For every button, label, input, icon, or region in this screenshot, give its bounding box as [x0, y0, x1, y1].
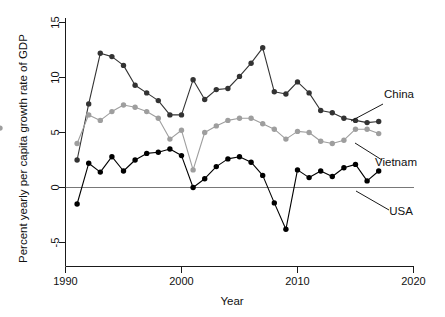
data-point: [318, 108, 323, 113]
data-point: [179, 112, 184, 117]
data-point: [167, 136, 172, 141]
data-point: [214, 87, 219, 92]
data-point: [283, 227, 288, 232]
data-point: [121, 168, 126, 173]
data-point: [98, 51, 103, 56]
x-tick-label-2020: 2020: [401, 275, 425, 287]
data-point: [121, 63, 126, 68]
data-point: [109, 154, 114, 159]
data-point: [353, 127, 358, 132]
data-point: [132, 105, 137, 110]
data-point: [74, 157, 79, 162]
data-point: [237, 74, 242, 79]
data-point: [295, 79, 300, 84]
data-point: [260, 173, 265, 178]
y-tick-label-15: 15: [49, 16, 61, 28]
data-point: [341, 116, 346, 121]
data-point: [225, 118, 230, 123]
data-point: [179, 128, 184, 133]
data-point: [190, 167, 195, 172]
series-label-china: China: [384, 88, 415, 100]
y-tick-label-5: 5: [49, 129, 61, 135]
data-point: [132, 83, 137, 88]
data-point: [202, 97, 207, 102]
data-point: [214, 123, 219, 128]
data-point: [248, 61, 253, 66]
x-axis-ticks: [66, 267, 414, 274]
data-point: [156, 150, 161, 155]
data-point: [98, 118, 103, 123]
data-point: [330, 141, 335, 146]
data-point: [144, 109, 149, 114]
data-point: [225, 156, 230, 161]
y-tick-label-10: 10: [49, 71, 61, 83]
data-point: [376, 119, 381, 124]
data-point: [86, 101, 91, 106]
x-axis-tick-labels: 1990 2000 2010 2020: [53, 275, 425, 287]
data-point: [144, 90, 149, 95]
data-point: [364, 120, 369, 125]
data-point: [202, 176, 207, 181]
data-point: [341, 165, 346, 170]
data-point: [179, 153, 184, 158]
data-point: [341, 138, 346, 143]
y-tick-label-minus5: -5: [49, 238, 61, 248]
data-point: [260, 45, 265, 50]
series-china: [74, 45, 381, 163]
data-point: [306, 90, 311, 95]
data-point: [156, 98, 161, 103]
data-point: [248, 160, 253, 165]
data-point: [190, 77, 195, 82]
data-point: [74, 201, 79, 206]
data-point: [132, 157, 137, 162]
data-point: [167, 146, 172, 151]
leader-line-usa: [356, 191, 389, 210]
data-point: [109, 54, 114, 59]
data-point: [156, 116, 161, 121]
x-tick-label-2010: 2010: [285, 275, 309, 287]
data-point: [86, 161, 91, 166]
data-point: [214, 164, 219, 169]
data-point: [0, 125, 3, 130]
growth-rate-line-chart: Percent yearly per capita growth rate of…: [0, 0, 445, 317]
y-tick-label-0: 0: [49, 184, 61, 190]
data-point: [121, 102, 126, 107]
data-point: [376, 168, 381, 173]
data-point: [364, 127, 369, 132]
data-point: [376, 131, 381, 136]
data-point: [190, 185, 195, 190]
series-label-vietnam: Vietnam: [375, 156, 417, 168]
data-point: [306, 130, 311, 135]
data-point: [86, 112, 91, 117]
chart-figure: Percent yearly per capita growth rate of…: [0, 0, 445, 317]
x-tick-label-2000: 2000: [169, 275, 193, 287]
data-point: [272, 200, 277, 205]
data-point: [283, 91, 288, 96]
data-point: [364, 178, 369, 183]
data-point: [330, 174, 335, 179]
y-axis-tick-labels: 15 10 5 0 -5: [49, 16, 61, 247]
data-point: [272, 127, 277, 132]
data-point: [330, 110, 335, 115]
data-point: [237, 154, 242, 159]
series-annotations-layer: ChinaVietnamUSA: [351, 88, 417, 217]
data-point: [306, 175, 311, 180]
leader-line-china: [351, 104, 383, 121]
x-axis-title: Year: [220, 295, 243, 307]
x-tick-label-1990: 1990: [53, 275, 77, 287]
data-point: [144, 151, 149, 156]
data-point: [295, 129, 300, 134]
data-point: [109, 109, 114, 114]
data-point: [74, 141, 79, 146]
data-point: [353, 162, 358, 167]
data-point: [272, 89, 277, 94]
data-point: [202, 130, 207, 135]
series-usa: [74, 146, 381, 232]
data-point: [260, 121, 265, 126]
data-point: [283, 136, 288, 141]
y-axis-title: Percent yearly per capita growth rate of…: [17, 34, 29, 263]
data-point: [98, 169, 103, 174]
data-point: [237, 116, 242, 121]
data-point: [225, 86, 230, 91]
data-point: [167, 112, 172, 117]
